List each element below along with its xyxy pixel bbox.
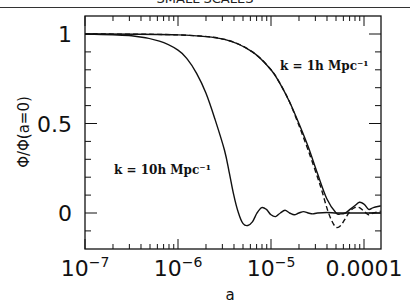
x-tick-label: 10−5 — [247, 254, 296, 281]
y-axis-label: Φ/Φ(a=0) — [15, 96, 33, 168]
y-tick-label: 0.5 — [37, 112, 72, 137]
annotation-k1: k = 1h Mpc⁻¹ — [280, 59, 369, 73]
x-tick-label: 0.0001 — [326, 256, 403, 281]
line-chart: 10−710−610−50.000100.51 a Φ/Φ(a=0) k = 1… — [0, 0, 410, 306]
x-axis-label: a — [225, 286, 234, 304]
x-tick-label: 10−6 — [154, 254, 203, 281]
y-tick-label: 0 — [58, 201, 72, 226]
y-tick-label: 1 — [58, 22, 72, 47]
annotation-k10: k = 10h Mpc⁻¹ — [114, 163, 211, 177]
x-tick-label: 10−7 — [61, 254, 110, 281]
